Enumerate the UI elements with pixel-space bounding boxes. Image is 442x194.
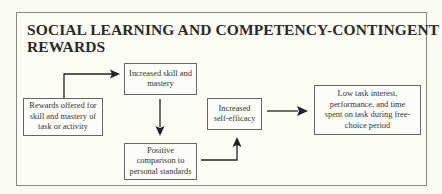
arrow-rewards-to-skill	[64, 74, 112, 98]
arrowhead-down-icon	[156, 126, 165, 136]
arrow-comparison-to-efficacy	[201, 144, 237, 160]
arrowhead-right-icon	[297, 106, 308, 116]
arrows-layer	[0, 0, 442, 194]
